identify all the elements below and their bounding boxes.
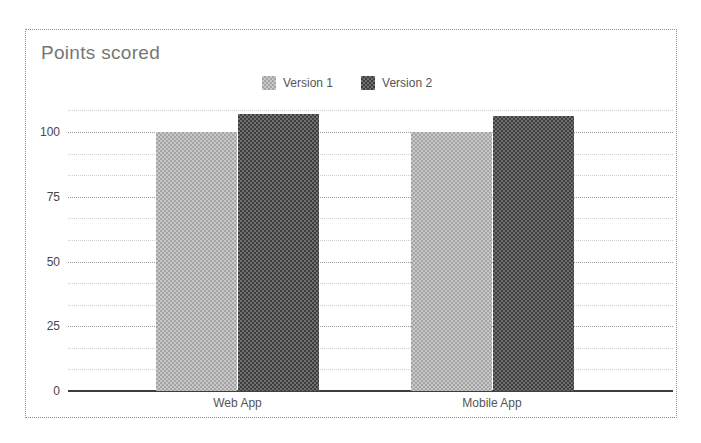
legend-swatch-version-2-icon — [361, 76, 375, 90]
y-axis-tick-label: 100 — [26, 124, 60, 140]
legend-item-version-2[interactable]: Version 2 — [361, 76, 432, 90]
bar-web-app-version-2[interactable] — [238, 114, 319, 391]
chart-container: Points scored Version 1 Version 2 025507… — [25, 29, 677, 418]
chart-title: Points scored — [41, 42, 160, 64]
legend-label: Version 1 — [283, 76, 333, 90]
x-axis-category-label: Mobile App — [432, 396, 552, 410]
y-axis-tick-label: 0 — [26, 383, 60, 399]
bar-web-app-version-1[interactable] — [156, 132, 237, 391]
bar-mobile-app-version-1[interactable] — [411, 132, 492, 391]
legend-swatch-version-1-icon — [262, 76, 276, 90]
legend-label: Version 2 — [382, 76, 432, 90]
y-axis-tick-label: 75 — [26, 189, 60, 205]
x-axis-category-label: Web App — [178, 396, 298, 410]
y-axis-tick-label: 25 — [26, 318, 60, 334]
plot-area — [68, 110, 673, 391]
bar-mobile-app-version-2[interactable] — [493, 116, 574, 391]
minor-gridline — [68, 110, 673, 111]
legend: Version 1 Version 2 — [262, 76, 432, 90]
y-axis-tick-label: 50 — [26, 254, 60, 270]
legend-item-version-1[interactable]: Version 1 — [262, 76, 333, 90]
